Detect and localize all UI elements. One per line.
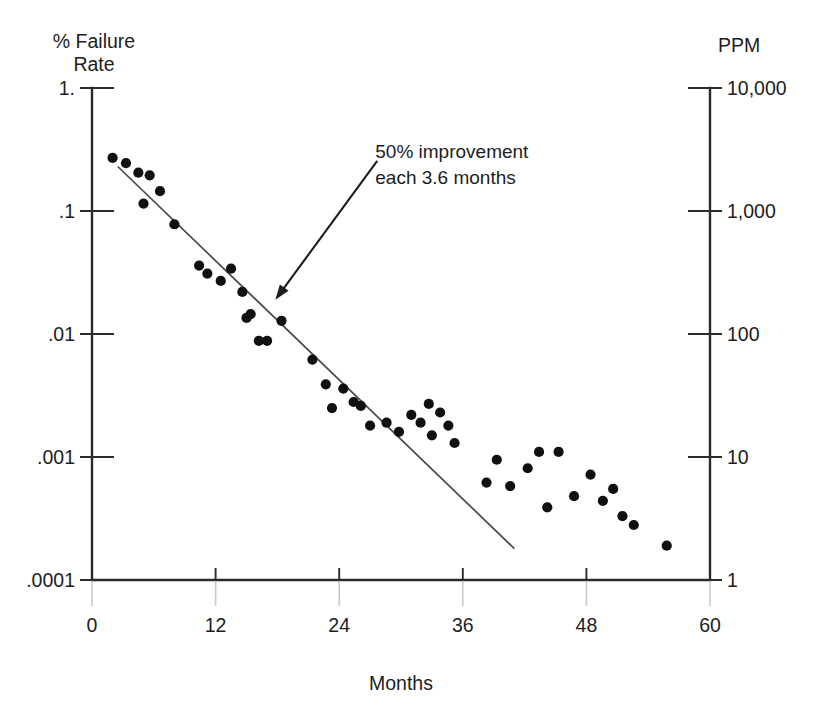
chart-canvas: % FailureRatePPM1..1.01.001.000110,0001,… [0,0,821,714]
annotation-arrow-shaft [282,161,377,291]
annotation-line-1: 50% improvement [375,141,529,162]
data-point [381,418,391,428]
data-point [226,264,236,274]
data-point [356,401,366,411]
data-point [449,438,459,448]
data-point [133,168,143,178]
data-point [155,186,165,196]
data-point [523,463,533,473]
data-point [108,153,118,163]
y-tick-label-left: .01 [48,323,75,345]
y-tick-label-right: 10,000 [727,77,787,99]
data-point [427,430,437,440]
data-point [553,447,563,457]
data-point [216,276,226,286]
x-axis-title: Months [369,672,433,694]
x-tick-label: 12 [205,614,227,636]
data-point [307,354,317,364]
right-axis-header: PPM [718,34,760,56]
data-point [327,403,337,413]
x-tick-label: 36 [452,614,474,636]
data-point [505,481,515,491]
left-axis-header-line1: % Failure [53,30,135,52]
data-point [569,491,579,501]
data-point [194,260,204,270]
data-point [542,502,552,512]
x-tick-label: 24 [328,614,350,636]
annotation-line-2: each 3.6 months [375,167,515,188]
data-point [534,447,544,457]
y-tick-label-right: 1 [727,569,738,591]
data-point [629,520,639,530]
data-point [492,455,502,465]
data-point [246,309,256,319]
annotation-arrow-head [275,284,288,299]
y-tick-label-right: 10 [727,446,749,468]
data-point [237,287,247,297]
y-tick-label-right: 1,000 [727,200,776,222]
data-point [443,421,453,431]
failure-rate-chart-figure: % FailureRatePPM1..1.01.001.000110,0001,… [0,0,821,714]
scatter-points-group [108,153,672,551]
data-point [585,469,595,479]
data-point [121,158,131,168]
data-point [617,511,627,521]
y-tick-label-left: 1. [59,77,75,99]
y-tick-label-left: .1 [59,200,75,222]
y-tick-label-left: .0001 [26,569,75,591]
data-point [145,170,155,180]
data-point [424,399,434,409]
data-point [435,407,445,417]
data-point [321,379,331,389]
y-tick-label-left: .001 [37,446,75,468]
data-point [662,541,672,551]
data-point [138,198,148,208]
data-point [202,268,212,278]
data-point [338,383,348,393]
data-point [394,427,404,437]
data-point [365,421,375,431]
data-point [276,316,286,326]
x-tick-label: 0 [87,614,98,636]
x-tick-label: 48 [576,614,598,636]
data-point [481,477,491,487]
left-axis-header-line2: Rate [73,53,114,75]
data-point [608,484,618,494]
data-point [415,418,425,428]
y-tick-label-right: 100 [727,323,760,345]
data-point [598,496,608,506]
x-tick-label: 60 [699,614,721,636]
data-point [169,219,179,229]
data-point [262,336,272,346]
data-point [406,410,416,420]
